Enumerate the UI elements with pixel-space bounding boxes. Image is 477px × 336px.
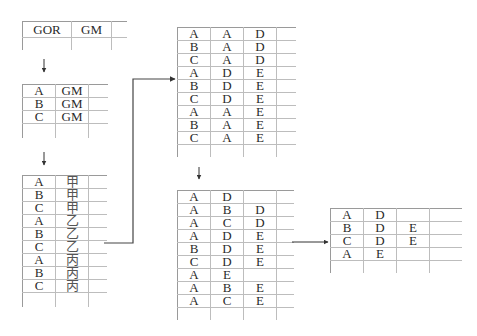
connectors-layer xyxy=(0,0,477,336)
arrow-expanded-to-mapped-icon xyxy=(104,79,175,243)
